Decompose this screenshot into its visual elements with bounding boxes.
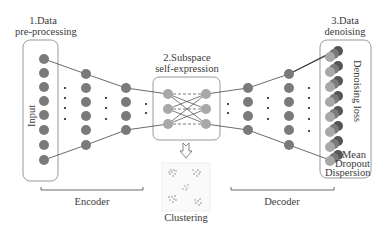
input-label: Input [26, 105, 37, 127]
input-node [39, 155, 49, 165]
input-node [39, 96, 49, 106]
encoder-label: Encoder [72, 196, 112, 207]
decoder-hidden-layer-1 [243, 83, 253, 135]
decoder-label: Decoder [262, 196, 302, 207]
decoder-hidden-layer-2 [284, 69, 294, 150]
decoder-outline-lines [206, 50, 338, 160]
self-expression-connections [168, 94, 206, 124]
encoder-hidden-layer-2 [121, 83, 131, 135]
input-node [39, 68, 49, 78]
input-node [39, 140, 49, 150]
output-layer [325, 46, 343, 166]
clustering-label: Clustering [160, 212, 212, 223]
clustering-scatter [162, 163, 210, 211]
encoder-hidden-layer-1 [81, 69, 91, 150]
down-arrow-icon [180, 143, 192, 158]
ellipsis-dots [64, 87, 310, 132]
encoder-bracket [41, 187, 143, 190]
stage-1-label: 1.Data pre-processing [15, 15, 71, 37]
input-layer [39, 54, 49, 165]
encoder-outline-lines [44, 59, 168, 160]
decoder-bracket [231, 187, 334, 190]
dispersion-label: Dispersion [325, 167, 371, 178]
input-node [39, 125, 49, 135]
denoising-loss-label: Denoising loss [352, 60, 363, 122]
input-node [39, 82, 49, 92]
input-node [39, 54, 49, 64]
stage-3-label: 3.Data denoising [316, 15, 374, 37]
input-node [39, 110, 49, 120]
stage-2-label: 2.Subspace self-expression [152, 52, 222, 74]
